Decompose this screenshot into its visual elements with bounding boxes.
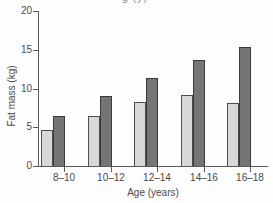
- x-axis-label: Age (years): [38, 187, 268, 198]
- bar-dark-gray-bars: [239, 47, 251, 166]
- y-tick: [33, 127, 38, 128]
- y-tick: [33, 89, 38, 90]
- x-tick-label: 12–14: [135, 173, 179, 183]
- bar-light-gray-bars: [88, 116, 100, 166]
- x-tick-label: 14–16: [182, 173, 226, 183]
- bar-dark-gray-bars: [146, 78, 158, 166]
- y-axis-line: [38, 11, 39, 167]
- bar-light-gray-bars: [227, 103, 239, 166]
- bar-dark-gray-bars: [53, 116, 65, 166]
- y-axis-label: Fat mass (kg): [6, 65, 17, 126]
- x-tick-label: 8–10: [42, 173, 86, 183]
- y-tick-label: 15: [0, 45, 32, 55]
- bar-dark-gray-bars: [100, 96, 112, 166]
- y-tick-label: 0: [0, 161, 32, 171]
- cropped-title-fragment: g (y): [122, 0, 182, 3]
- x-tick-label: 16–18: [228, 173, 272, 183]
- x-tick-label: 10–12: [89, 173, 133, 183]
- bar-light-gray-bars: [41, 130, 53, 166]
- bar-light-gray-bars: [181, 95, 193, 166]
- y-tick: [33, 50, 38, 51]
- y-tick-label: 5: [0, 122, 32, 132]
- y-tick-label: 20: [0, 6, 32, 16]
- fat-mass-bar-chart: g (y) Fat mass (kg) Age (years) 05101520…: [0, 0, 273, 203]
- y-tick-label: 10: [0, 84, 32, 94]
- bar-dark-gray-bars: [193, 60, 205, 166]
- y-tick: [33, 11, 38, 12]
- x-axis-line: [38, 166, 268, 167]
- bar-light-gray-bars: [134, 102, 146, 166]
- y-tick: [33, 166, 38, 167]
